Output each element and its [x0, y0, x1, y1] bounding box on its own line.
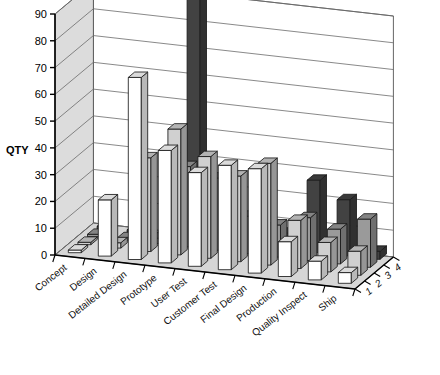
bar: [158, 145, 177, 263]
y-tick-label: 20: [35, 195, 47, 207]
category-label: Ship: [316, 292, 339, 313]
series-axis-label: 3: [382, 269, 394, 281]
bar: [338, 267, 357, 283]
y-tick-label: 80: [35, 35, 47, 47]
y-tick-label: 90: [35, 8, 47, 20]
y-tick-label: 30: [35, 169, 47, 181]
category-label: Design: [67, 265, 98, 293]
category-label: Concept: [33, 262, 69, 294]
y-axis-title: QTY: [6, 144, 29, 156]
y-tick-label: 0: [41, 249, 47, 261]
bar: [128, 72, 147, 259]
bar: [218, 160, 237, 270]
y-tick-label: 10: [35, 222, 47, 234]
bar: [98, 194, 117, 256]
bar: [308, 256, 327, 280]
category-label: Detailed Design: [66, 269, 128, 321]
series-axis-label: 2: [372, 277, 384, 290]
series-axis-label: 1: [363, 285, 374, 297]
y-tick-labels: 0102030405060708090: [35, 8, 55, 261]
bar-chart-3d: 0102030405060708090 ConceptDesignDetaile…: [0, 0, 440, 375]
chart-figure: 0102030405060708090 ConceptDesignDetaile…: [0, 0, 440, 375]
bar: [248, 163, 267, 273]
bar: [188, 167, 207, 266]
series-axis-label: 4: [392, 261, 404, 273]
bar: [278, 236, 297, 276]
y-tick-label: 40: [35, 142, 47, 154]
y-tick-label: 50: [35, 115, 47, 127]
y-tick-label: 70: [35, 62, 47, 74]
y-tick-label: 60: [35, 88, 47, 100]
